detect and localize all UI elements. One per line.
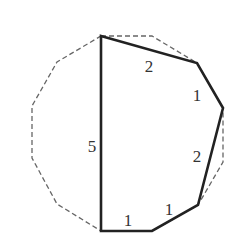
dashed-dodecagon-outline xyxy=(32,36,223,231)
edge-label-lower-right: 1 xyxy=(165,200,174,219)
edge-labels: 2 1 2 1 1 5 xyxy=(88,57,202,230)
edge-label-upper-right: 1 xyxy=(193,86,202,105)
polygon-diagram: 2 1 2 1 1 5 xyxy=(0,0,249,233)
solid-hexagon-outline xyxy=(101,36,223,231)
edge-label-left: 5 xyxy=(88,137,97,156)
edge-label-top: 2 xyxy=(145,57,154,76)
edge-label-right: 2 xyxy=(193,147,202,166)
edge-label-bottom: 1 xyxy=(124,211,133,230)
